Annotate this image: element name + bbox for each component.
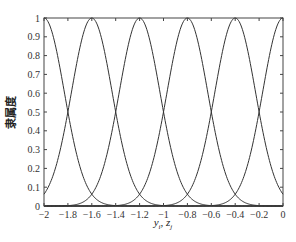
y-tick-label: 0.8: [28, 50, 41, 61]
curves: [44, 18, 283, 206]
y-tick-label: 0.4: [28, 125, 41, 136]
x-tick-label: −0.2: [250, 209, 268, 220]
x-tick-label: −1.8: [59, 209, 77, 220]
y-tick-label: 0.1: [28, 182, 41, 193]
x-tick-label: −1.2: [131, 209, 149, 220]
x-axis-title: yi, zj: [153, 216, 173, 231]
y-tick-label: 1: [35, 13, 40, 24]
y-tick-label: 0.9: [28, 31, 41, 42]
x-tick-label: −0.8: [178, 209, 196, 220]
x-tick-label: −0.6: [202, 209, 220, 220]
x-tick-label: −1.4: [107, 209, 125, 220]
x-tick-label: −2: [39, 209, 50, 220]
x-tick-label: −0.4: [226, 209, 244, 220]
x-tick-label: 0: [281, 209, 286, 220]
y-axis: 00.10.20.30.40.50.60.70.80.91: [28, 13, 284, 212]
y-tick-label: 0.2: [28, 163, 41, 174]
x-tick-label: −1.6: [83, 209, 101, 220]
y-tick-label: 0.3: [28, 144, 41, 155]
membership-function-chart: −2−1.8−1.6−1.4−1.2−1−0.8−0.6−0.4−0.20 00…: [0, 0, 296, 242]
y-axis-title: 隶属度: [4, 95, 17, 129]
y-tick-label: 0.5: [28, 107, 41, 118]
y-tick-label: 0.7: [28, 69, 41, 80]
y-tick-label: 0.6: [28, 88, 41, 99]
y-tick-label: 0: [35, 201, 40, 212]
